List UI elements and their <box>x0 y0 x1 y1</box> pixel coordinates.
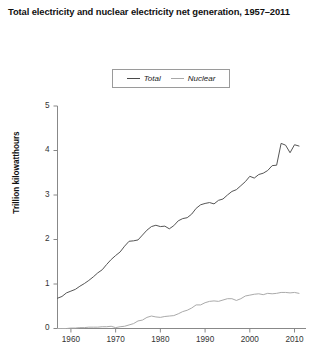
series-line-total <box>58 143 300 298</box>
y-tick-label: 4 <box>36 145 50 154</box>
x-tick-label: 2010 <box>278 335 310 344</box>
y-tick-label: 1 <box>36 279 50 288</box>
plot-area <box>0 0 310 360</box>
x-tick-label: 2000 <box>233 335 267 344</box>
x-tick-label: 1980 <box>143 335 177 344</box>
y-tick-label: 2 <box>36 234 50 243</box>
y-tick-label: 3 <box>36 190 50 199</box>
chart-page: Total electricity and nuclear electricit… <box>0 0 310 360</box>
series-line-nuclear <box>58 292 300 328</box>
x-tick-label: 1960 <box>54 335 88 344</box>
y-tick-label: 0 <box>36 323 50 332</box>
y-tick-label: 5 <box>36 101 50 110</box>
x-tick-label: 1990 <box>188 335 222 344</box>
x-tick-label: 1970 <box>99 335 133 344</box>
